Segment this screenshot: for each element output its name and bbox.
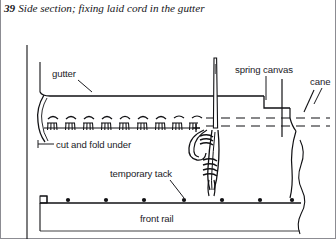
rail-tack-dot [66, 198, 70, 202]
label-spring-canvas: spring canvas [235, 64, 293, 75]
rail-tack-dot [290, 198, 294, 202]
stitch-guide-arcs [48, 116, 202, 119]
sewing-needle [213, 58, 217, 128]
tack-cluster [101, 123, 111, 130]
label-temporary-tack: temporary tack [110, 168, 172, 179]
tack-cluster [65, 123, 75, 130]
tack-cluster [119, 123, 129, 130]
rail-tack-dot [104, 198, 108, 202]
tack-cluster [155, 123, 165, 130]
rail-tack-dot [220, 198, 224, 202]
label-front-rail: front rail [140, 213, 174, 224]
tack-row [47, 123, 198, 130]
gutter-front-edge [38, 95, 48, 142]
rail-tack-dot [182, 198, 186, 202]
leader-lines [38, 76, 322, 198]
rail-tack-dot [258, 198, 262, 202]
tack-cluster [137, 123, 147, 130]
tack-cluster [189, 123, 198, 130]
label-cane: cane [310, 76, 330, 87]
label-gutter: gutter [52, 68, 76, 79]
rail-tack-dot [142, 198, 146, 202]
label-cut-and-fold-under: cut and fold under [56, 139, 131, 150]
tack-cluster [47, 123, 57, 130]
side-section-diagram [0, 0, 336, 239]
torn-edge-right [298, 140, 305, 234]
figure-page: 39Side section; fixing laid cord in the … [0, 0, 336, 239]
tack-cluster [172, 123, 182, 130]
rail-tack-dots [66, 198, 294, 202]
tack-cluster [83, 123, 93, 130]
laid-cord [189, 130, 219, 196]
gutter-tack-detail [193, 124, 200, 132]
